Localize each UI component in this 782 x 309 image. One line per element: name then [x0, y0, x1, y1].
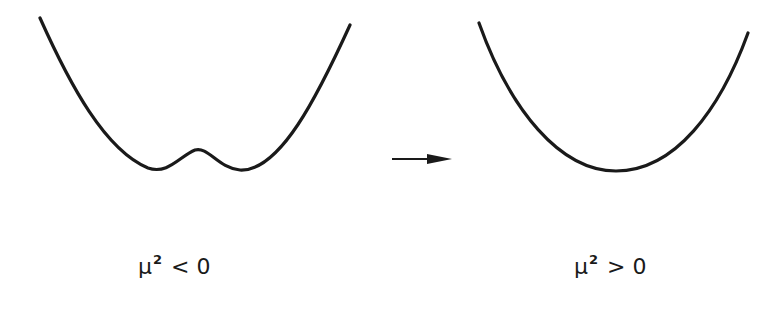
exponent: 2 — [153, 252, 163, 267]
double-well-curve — [40, 18, 350, 170]
mu-symbol: μ — [138, 254, 153, 279]
exponent: 2 — [589, 252, 599, 267]
right-condition-label: μ2>0 — [574, 254, 647, 279]
left-condition-label: μ2<0 — [138, 254, 211, 279]
less-than-operator: < — [171, 254, 190, 279]
mu-symbol: μ — [574, 254, 589, 279]
greater-than-operator: > — [607, 254, 626, 279]
right-arrow-icon — [392, 154, 452, 164]
zero-value: 0 — [632, 254, 647, 279]
single-well-curve — [479, 23, 748, 171]
zero-value: 0 — [196, 254, 211, 279]
potential-diagram — [0, 0, 782, 309]
